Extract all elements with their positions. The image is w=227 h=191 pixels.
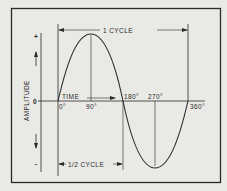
amplitude-axis-label: AMPLITUDE xyxy=(23,80,30,121)
amplitude-zero-label: 0 xyxy=(33,98,37,105)
time-label: TIME xyxy=(62,93,79,100)
sine-wave-diagram: 1 CYCLE TIME 0° 90° 180° 270° 360° + 0 -… xyxy=(0,0,227,191)
tick-90-degrees: 90° xyxy=(86,103,97,110)
amplitude-minus-label: - xyxy=(35,160,38,167)
amplitude-plus-label: + xyxy=(34,33,38,40)
full-cycle-label: 1 CYCLE xyxy=(103,27,133,34)
tick-270-degrees: 270° xyxy=(148,93,163,100)
diagram-frame xyxy=(12,9,221,183)
tick-360-degrees: 360° xyxy=(190,103,205,110)
tick-0-degrees: 0° xyxy=(59,103,66,110)
half-cycle-label: 1/2 CYCLE xyxy=(68,161,104,168)
tick-180-degrees: 180° xyxy=(124,93,139,100)
